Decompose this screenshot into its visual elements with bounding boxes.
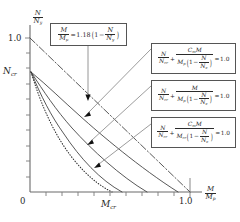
moment-term-fraction: CmM Mcr(1−NNe) [175, 121, 214, 144]
interaction-equation-mp-box: N Ncr + M Mp(1−NNe) = 1.0 [151, 80, 236, 111]
rhs-value: 1.0 [220, 93, 229, 99]
interaction-diagram-figure: M Mp = 1.18 ( 1 − N Ny ) N Ncr + CmM Mp(… [0, 0, 240, 222]
denominator-mp-term: Mp(1−NNe) [176, 91, 213, 107]
y-axis-title: N Ny [32, 10, 44, 26]
rhs-value: 1.0 [220, 56, 229, 62]
series-curve-cm-mcr [31, 72, 122, 192]
n-over-ncr-fraction: N Ncr [157, 125, 168, 140]
coefficient: 1.18 [76, 31, 90, 39]
moment-term-fraction: M Mp(1−NNe) [176, 85, 213, 107]
lhs-fraction: M Mp [58, 27, 69, 42]
denominator-mp-term: Mp(1−NNe) [176, 54, 213, 70]
series-curve-mp [31, 72, 147, 192]
numerator-cm-m: CmM [175, 121, 214, 129]
plus-sign: + [169, 130, 175, 136]
rhs-value: 1.0 [221, 130, 230, 136]
leader-plastic-hinge [85, 46, 90, 101]
interaction-equation-cm-mp-box: N Ncr + CmM Mp(1−NNe) = 1.0 [151, 43, 236, 74]
plus-sign: + [170, 93, 176, 99]
x-axis-ticks [46, 192, 190, 197]
leader-box-r2 [87, 86, 151, 145]
x-tick-label-one: 1.0 [179, 196, 193, 206]
y-tick-label-ncr: Ncr [3, 66, 17, 77]
minus-sign: − [98, 31, 105, 39]
origin-label: 0 [20, 196, 25, 206]
n-over-ncr-fraction: N Ncr [158, 88, 169, 103]
y-tick-label-one: 1.0 [8, 33, 22, 43]
denominator-mcr-term: Mcr(1−NNe) [175, 128, 214, 144]
plus-sign: + [170, 56, 176, 62]
moment-term-fraction: CmM Mp(1−NNe) [176, 47, 213, 70]
paren-close: ) [116, 31, 118, 38]
n-over-ny-fraction: N Ny [105, 27, 115, 42]
plastic-hinge-equation-box: M Mp = 1.18 ( 1 − N Ny ) [50, 23, 127, 46]
interaction-equation-cm-mcr-box: N Ncr + CmM Mcr(1−NNe) = 1.0 [151, 117, 236, 148]
x-axis-title: M Mp [204, 186, 217, 202]
paren-open: ( [91, 31, 93, 38]
n-over-ncr-fraction: N Ncr [158, 51, 169, 66]
leader-box-r1 [84, 49, 151, 117]
y-axis-ticks [25, 38, 30, 177]
x-tick-label-mcr: Mcr [101, 199, 116, 210]
numerator-cm-m: CmM [176, 47, 213, 55]
